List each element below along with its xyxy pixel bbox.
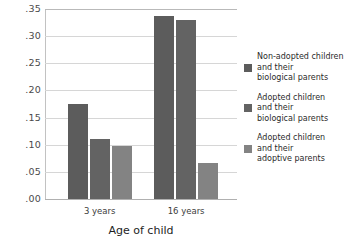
bar xyxy=(68,104,88,199)
chart-legend: Non-adopted children and their biologica… xyxy=(244,52,354,174)
legend-label: Adopted children and their adoptive pare… xyxy=(257,133,325,165)
legend-entry[interactable]: Adopted children and their adoptive pare… xyxy=(244,133,354,165)
bar xyxy=(176,20,196,199)
y-axis-tick-label: .20 xyxy=(1,84,41,95)
x-axis-title: Age of child xyxy=(45,224,237,237)
legend-entry[interactable]: Adopted children and their biological pa… xyxy=(244,93,354,125)
bar-group xyxy=(154,9,218,199)
legend-entry[interactable]: Non-adopted children and their biologica… xyxy=(244,52,354,84)
bar xyxy=(112,146,132,199)
legend-label: Adopted children and their biological pa… xyxy=(257,93,328,125)
y-axis-tick-label: .35 xyxy=(1,3,41,14)
y-axis-tick-label: .30 xyxy=(1,30,41,41)
y-axis-tick-label: .05 xyxy=(1,166,41,177)
y-axis-tick-label: .15 xyxy=(1,112,41,123)
bar-chart: .35.30.25.20.15.10.05.00 3 years16 years… xyxy=(0,0,354,246)
bar xyxy=(154,16,174,199)
y-axis-tick-labels: .35.30.25.20.15.10.05.00 xyxy=(0,9,41,199)
legend-label: Non-adopted children and their biologica… xyxy=(257,52,344,84)
bar xyxy=(198,163,218,199)
x-axis-tick-label: 16 years xyxy=(134,206,238,216)
y-axis-tick-label: .25 xyxy=(1,57,41,68)
legend-swatch-icon xyxy=(244,64,252,72)
legend-swatch-icon xyxy=(244,145,252,153)
plot-area xyxy=(45,9,237,199)
bar-group xyxy=(68,9,132,199)
y-axis-tick-label: .00 xyxy=(1,193,41,204)
bar xyxy=(90,139,110,199)
y-axis-tick-label: .10 xyxy=(1,139,41,150)
legend-swatch-icon xyxy=(244,104,252,112)
gridline xyxy=(45,199,237,200)
